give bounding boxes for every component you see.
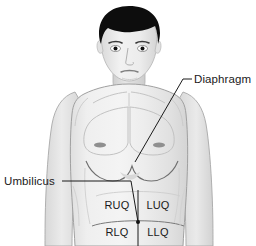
- quadrant-label-ruq: RUQ: [104, 199, 129, 211]
- pupil-left: [141, 47, 145, 51]
- label-umbilicus: Umbilicus: [4, 175, 55, 187]
- quadrant-label-llq: LLQ: [147, 226, 169, 238]
- anatomy-illustration: Diaphragm Umbilicus RUQ LUQ RLQ LLQ: [0, 0, 256, 246]
- nipple-left-icon: [153, 142, 165, 147]
- pupil-right: [114, 47, 118, 51]
- anatomy-figure: Diaphragm Umbilicus RUQ LUQ RLQ LLQ: [0, 0, 256, 246]
- quadrant-label-rlq: RLQ: [105, 226, 128, 238]
- label-diaphragm: Diaphragm: [194, 73, 251, 85]
- nipple-right-icon: [94, 142, 106, 147]
- quadrant-label-luq: LUQ: [146, 199, 169, 211]
